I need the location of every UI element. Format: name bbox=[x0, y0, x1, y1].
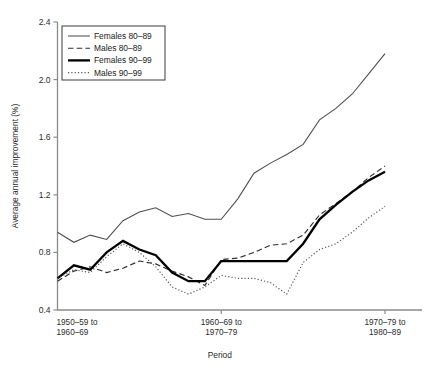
x-axis-tick-label: 1950–59 to bbox=[57, 318, 98, 327]
x-axis-tick-label: 1970–79 bbox=[205, 328, 237, 337]
x-axis-tick-label: 1960–69 to bbox=[201, 318, 242, 327]
y-axis-tick-label: 0.4 bbox=[39, 305, 51, 315]
x-axis-title: Period bbox=[208, 350, 233, 360]
y-axis-tick-label: 2.0 bbox=[39, 75, 51, 85]
x-axis-tick-label: 1980–89 bbox=[369, 328, 401, 337]
x-axis-tick-label: 1970–79 to bbox=[365, 318, 406, 327]
y-axis-tick-label: 1.6 bbox=[39, 132, 51, 142]
y-axis-tick-label: 0.8 bbox=[39, 247, 51, 257]
line-chart: 0.40.81.21.62.02.41950–59 to1960–691960–… bbox=[0, 0, 439, 373]
y-axis-tick-label: 2.4 bbox=[39, 17, 51, 27]
y-axis-title: Average annual improvement (%) bbox=[10, 103, 20, 228]
series-line-females-80-89 bbox=[58, 54, 386, 243]
legend-label-0: Females 80–89 bbox=[94, 31, 152, 41]
series-line-females-90-99 bbox=[58, 172, 386, 281]
chart-container: 0.40.81.21.62.02.41950–59 to1960–691960–… bbox=[0, 0, 439, 373]
y-axis-tick-label: 1.2 bbox=[39, 190, 51, 200]
legend-label-3: Males 90–99 bbox=[94, 68, 142, 78]
legend-label-2: Females 90–99 bbox=[94, 55, 152, 65]
x-axis-tick-label: 1960–69 bbox=[57, 328, 89, 337]
series-line-males-80-89 bbox=[58, 166, 386, 286]
legend-label-1: Males 80–89 bbox=[94, 43, 142, 53]
